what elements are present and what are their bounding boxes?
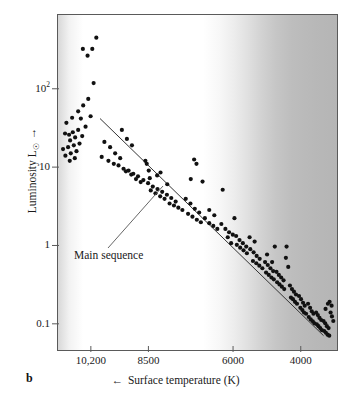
hr-diagram-figure: 1021010.1 10,200850060004000 Luminosity …	[0, 0, 351, 402]
panel-letter-label: b	[26, 371, 33, 386]
annotation-leader-line	[0, 0, 351, 402]
main-sequence-annotation-label: Main sequence	[74, 249, 143, 261]
